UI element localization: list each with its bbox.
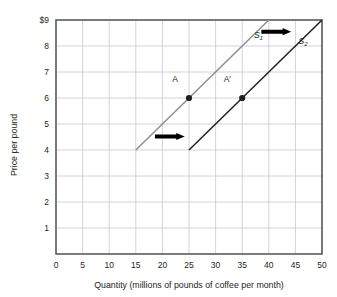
x-tick-label: 25 xyxy=(184,260,194,270)
y-tick-label: 4 xyxy=(44,145,49,155)
x-tick-label: 50 xyxy=(317,260,327,270)
point-marker-A xyxy=(186,95,192,101)
x-tick-label: 30 xyxy=(211,260,221,270)
y-tick-label: 7 xyxy=(44,67,49,77)
point-label-A: A xyxy=(172,74,178,84)
y-tick-label: 2 xyxy=(44,197,49,207)
y-axis-title: Price per pound xyxy=(9,114,19,176)
y-tick-label: 5 xyxy=(44,119,49,129)
y-tick-label: 6 xyxy=(44,93,49,103)
x-tick-label: 35 xyxy=(237,260,247,270)
x-tick-label: 10 xyxy=(104,260,114,270)
curve-subscript-S2: 2 xyxy=(303,41,308,47)
y-tick-label: 8 xyxy=(44,41,49,51)
x-tick-label: 40 xyxy=(264,260,274,270)
point-marker-A-prime xyxy=(239,95,245,101)
point-label-A-prime: A' xyxy=(224,74,232,84)
x-axis-title: Quantity (millions of pounds of coffee p… xyxy=(94,280,284,290)
x-tick-label: 15 xyxy=(131,260,141,270)
supply-shift-chart: S1S2 AA' 05101520253035404550 12345678$9… xyxy=(0,0,337,297)
chart-svg: S1S2 AA' 05101520253035404550 12345678$9… xyxy=(0,0,337,297)
y-tick-label: $9 xyxy=(40,15,50,25)
y-tick-label: 1 xyxy=(44,223,49,233)
x-tick-label: 20 xyxy=(158,260,168,270)
x-tick-label: 5 xyxy=(80,260,85,270)
y-tick-label: 3 xyxy=(44,171,49,181)
x-tick-label: 0 xyxy=(54,260,59,270)
chart-background xyxy=(0,0,337,297)
curve-subscript-S1: 1 xyxy=(260,35,263,41)
x-tick-label: 45 xyxy=(291,260,301,270)
